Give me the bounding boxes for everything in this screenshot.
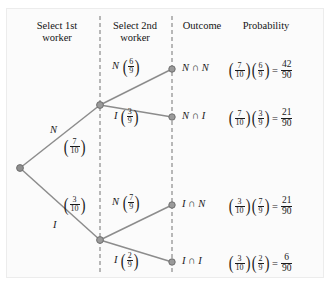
outcome-row-3: I ∩ N (182, 198, 205, 209)
branch-label-II: I ( 2 9 ) (114, 252, 139, 269)
probability-row-2: ( 7 10 ) ( 3 9 ) = 21 90 (228, 108, 292, 128)
probability-tree-figure: Select 1st worker Select 2nd worker Outc… (0, 0, 332, 291)
node-stage1-I (97, 237, 104, 244)
outcome-row-1: N ∩ N (182, 62, 209, 73)
outcome-row-4: I ∩ I (182, 255, 202, 266)
outcome-row-2: N ∩ I (182, 110, 205, 121)
equals-sign-row-4: = (272, 258, 278, 269)
probability-row-1: ( 7 10 ) ( 6 9 ) = 42 90 (228, 60, 292, 80)
probability-row-3: ( 3 10 ) ( 7 9 ) = 21 90 (228, 196, 292, 216)
branch-label-IN: N ( 7 9 ) (112, 194, 141, 211)
branch-root-to-N (20, 105, 100, 168)
branch-label-I: I (53, 219, 57, 230)
equals-sign-row-1: = (272, 65, 278, 76)
tree-graphics (0, 0, 332, 291)
branch-label-NN: N ( 6 9 ) (112, 58, 141, 75)
probability-row-4: ( 3 10 ) ( 2 9 ) = 6 90 (228, 253, 292, 273)
branch-label-NI: I ( 3 9 ) (114, 108, 139, 125)
branch-root-to-I (20, 168, 100, 240)
node-stage1-N (97, 102, 104, 109)
node-outcome-NI (169, 114, 175, 120)
branch-label-N: N (50, 124, 57, 135)
node-root (17, 165, 24, 172)
branch-prob-I: ( 3 10 ) (63, 196, 86, 213)
node-outcome-NN (169, 66, 175, 72)
equals-sign-row-2: = (272, 113, 278, 124)
equals-sign-row-3: = (272, 201, 278, 212)
node-outcome-II (169, 259, 175, 265)
node-outcome-IN (169, 202, 175, 208)
branch-prob-N: ( 7 10 ) (63, 138, 86, 155)
